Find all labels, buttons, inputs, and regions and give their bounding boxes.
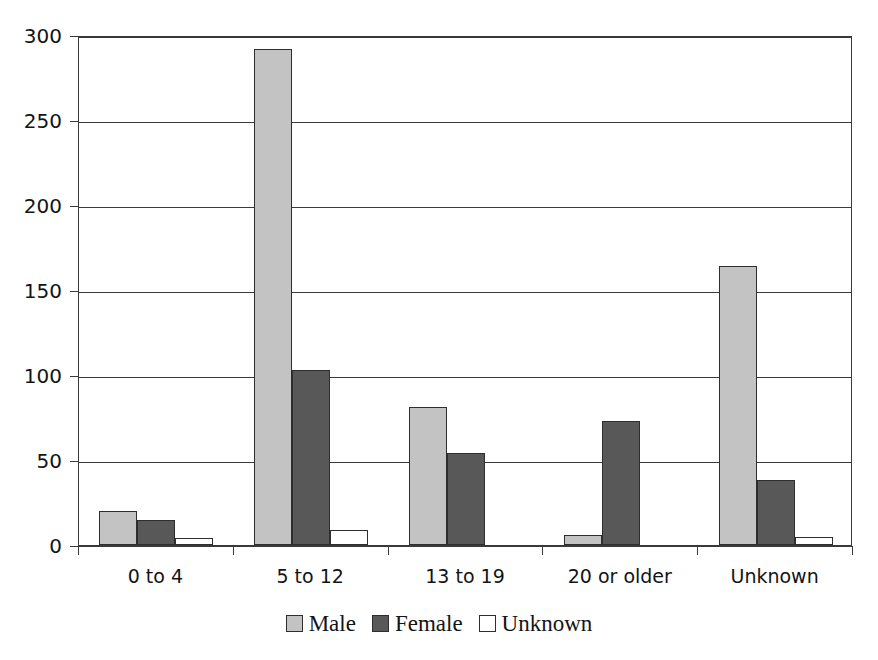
y-axis-tick-label: 250 (2, 111, 62, 131)
y-axis-tick (70, 376, 79, 377)
legend-item-male: Male (286, 612, 356, 635)
bar (602, 421, 640, 545)
bar (409, 407, 447, 545)
x-axis-tick (233, 546, 234, 555)
y-axis-tick-label: 50 (2, 451, 62, 471)
gridline (79, 37, 851, 38)
bar (757, 480, 795, 545)
bar-chart-figure: 050100150200250300 0 to 45 to 1213 to 19… (0, 0, 878, 660)
gridline (79, 122, 851, 123)
x-axis-line (78, 546, 853, 547)
x-axis-tick (697, 546, 698, 555)
bar (254, 49, 292, 545)
x-axis-tick (78, 546, 79, 555)
bar (99, 511, 137, 545)
chart-legend: MaleFemaleUnknown (0, 612, 878, 635)
bar (175, 538, 213, 545)
y-axis-tick-label: 200 (2, 196, 62, 216)
bar (137, 520, 175, 546)
x-axis-tick (388, 546, 389, 555)
bar (447, 453, 485, 545)
plot-area (78, 36, 852, 546)
x-axis-tick-label: 0 to 4 (78, 565, 233, 587)
x-axis-tick (852, 546, 853, 555)
y-axis-tick (70, 461, 79, 462)
y-axis-tick (70, 36, 79, 37)
x-axis-tick-label: 13 to 19 (388, 565, 543, 587)
y-axis-tick (70, 206, 79, 207)
x-axis-tick-label: 20 or older (542, 565, 697, 587)
y-axis-tick-label: 150 (2, 281, 62, 301)
bar (795, 537, 833, 546)
legend-item-female: Female (372, 612, 463, 635)
x-axis-tick (542, 546, 543, 555)
x-axis-tick-label: 5 to 12 (233, 565, 388, 587)
y-axis-tick-label: 300 (2, 26, 62, 46)
legend-swatch-icon (479, 615, 496, 632)
x-axis-tick-label: Unknown (697, 565, 852, 587)
gridline (79, 207, 851, 208)
legend-label: Female (395, 612, 463, 635)
bar (330, 530, 368, 545)
bar (292, 370, 330, 545)
legend-swatch-icon (372, 615, 389, 632)
y-axis-tick (70, 291, 79, 292)
legend-item-unknown: Unknown (479, 612, 593, 635)
y-axis-tick-label: 0 (2, 536, 62, 556)
legend-label: Unknown (502, 612, 593, 635)
y-axis-tick (70, 121, 79, 122)
bar (719, 266, 757, 545)
bar (564, 535, 602, 545)
legend-swatch-icon (286, 615, 303, 632)
y-axis-tick-label: 100 (2, 366, 62, 386)
legend-label: Male (309, 612, 356, 635)
